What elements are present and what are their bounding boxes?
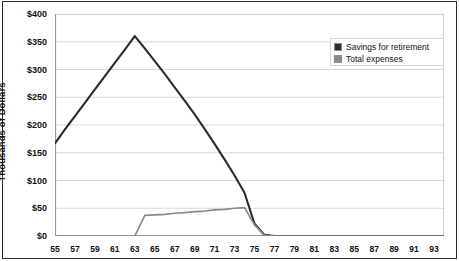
x-tick-label: 75 xyxy=(243,244,265,254)
x-tick-label: 63 xyxy=(124,244,146,254)
x-tick-label: 89 xyxy=(383,244,405,254)
y-axis-title: Thousands of Dollars xyxy=(0,52,12,212)
retirement-savings-chart-figure: Thousands of Dollars $0$50$100$150$200$2… xyxy=(0,0,459,261)
y-tick-label: $0 xyxy=(0,231,47,241)
x-tick-label: 67 xyxy=(164,244,186,254)
x-tick-label: 59 xyxy=(84,244,106,254)
series-line-savings xyxy=(55,36,444,236)
legend-label-expenses: Total expenses xyxy=(346,54,403,64)
series-line-expenses xyxy=(55,208,444,236)
legend-label-savings: Savings for retirement xyxy=(346,42,429,52)
legend-item-expenses: Total expenses xyxy=(334,53,440,64)
x-tick-label: 69 xyxy=(184,244,206,254)
x-tick-label: 65 xyxy=(144,244,166,254)
x-tick-label: 61 xyxy=(104,244,126,254)
y-tick-label: $400 xyxy=(0,9,47,19)
x-tick-label: 83 xyxy=(323,244,345,254)
x-tick-label: 57 xyxy=(64,244,86,254)
legend-swatch-savings-icon xyxy=(334,43,342,51)
x-tick-label: 79 xyxy=(283,244,305,254)
x-tick-label: 81 xyxy=(303,244,325,254)
chart-legend: Savings for retirement Total expenses xyxy=(330,38,444,66)
x-tick-label: 71 xyxy=(204,244,226,254)
x-tick-label: 91 xyxy=(403,244,425,254)
x-tick-label: 73 xyxy=(224,244,246,254)
x-tick-label: 93 xyxy=(423,244,445,254)
x-tick-label: 85 xyxy=(343,244,365,254)
legend-item-savings: Savings for retirement xyxy=(334,41,440,52)
x-tick-label: 87 xyxy=(363,244,385,254)
x-tick-label: 55 xyxy=(44,244,66,254)
x-tick-label: 77 xyxy=(263,244,285,254)
legend-swatch-expenses-icon xyxy=(334,55,342,63)
y-tick-label: $350 xyxy=(0,37,47,47)
